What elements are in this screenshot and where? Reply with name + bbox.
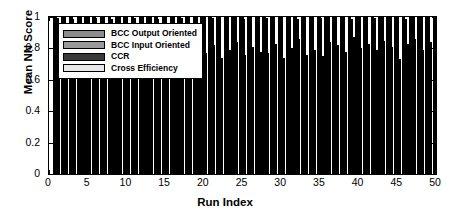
y-axis-tick: [49, 111, 53, 112]
y-axis-tick: [432, 174, 436, 175]
bar: [105, 64, 107, 174]
bar: [360, 48, 362, 174]
bar: [314, 50, 316, 174]
legend-label: CCR: [111, 52, 129, 61]
y-tick-label: 0.2: [0, 137, 40, 147]
legend-item[interactable]: BCC Input Oriented: [63, 40, 197, 50]
x-axis-tick: [165, 170, 166, 174]
bar: [244, 55, 246, 174]
legend-label: BCC Output Oriented: [111, 29, 197, 38]
x-axis-tick: [320, 170, 321, 174]
x-axis-tick: [436, 17, 437, 21]
bar: [221, 58, 223, 174]
x-axis-tick: [320, 17, 321, 21]
y-axis-tick: [49, 48, 53, 49]
bar: [236, 42, 238, 174]
x-axis-tick: [88, 170, 89, 174]
bar: [430, 42, 432, 174]
bar: [376, 50, 378, 174]
x-tick-label: 0: [33, 177, 63, 187]
bar: [267, 53, 269, 174]
bar: [229, 50, 231, 174]
legend-label: BCC Input Oriented: [111, 41, 190, 50]
x-axis-title: Run Index: [0, 196, 450, 208]
x-tick-label: 35: [304, 177, 334, 187]
x-tick-label: 45: [381, 177, 411, 187]
bar: [151, 64, 153, 174]
x-axis-tick: [126, 17, 127, 21]
y-axis-tick: [432, 48, 436, 49]
bar: [128, 64, 130, 174]
x-tick-label: 5: [72, 177, 102, 187]
x-axis-tick: [204, 17, 205, 21]
x-axis-tick: [204, 170, 205, 174]
y-axis-tick: [432, 80, 436, 81]
bar: [144, 64, 146, 174]
legend-swatch: [63, 30, 105, 38]
x-axis-tick: [126, 170, 127, 174]
bar: [368, 44, 370, 174]
bar: [291, 48, 293, 174]
x-tick-label: 10: [110, 177, 140, 187]
x-axis-tick: [359, 17, 360, 21]
bar: [58, 64, 60, 174]
bar: [422, 50, 424, 174]
legend-item[interactable]: CCR: [63, 52, 197, 62]
legend-label: Cross Efficiency: [111, 64, 178, 73]
bar: [260, 52, 262, 174]
bar: [407, 44, 409, 174]
x-axis-tick: [243, 170, 244, 174]
x-tick-label: 30: [265, 177, 295, 187]
y-tick-label: 0.8: [0, 42, 40, 52]
bar: [306, 55, 308, 174]
legend: BCC Output OrientedBCC Input OrientedCCR…: [58, 23, 203, 79]
legend-item[interactable]: Cross Efficiency: [63, 63, 197, 73]
y-tick-label: 0.6: [0, 74, 40, 84]
x-axis-tick: [436, 170, 437, 174]
bar: [136, 64, 138, 174]
bar: [120, 64, 122, 174]
bar: [252, 47, 254, 174]
x-tick-label: 50: [420, 177, 450, 187]
x-axis-tick: [397, 17, 398, 21]
x-axis-tick: [281, 170, 282, 174]
bar: [399, 59, 401, 174]
x-axis-tick: [243, 17, 244, 21]
bar: [167, 64, 169, 174]
bar: [414, 39, 416, 174]
y-axis-tick: [49, 143, 53, 144]
x-axis-tick: [281, 17, 282, 21]
legend-item[interactable]: BCC Output Oriented: [63, 29, 197, 39]
bar: [113, 64, 115, 174]
bar: [345, 52, 347, 174]
y-axis-tick: [49, 174, 53, 175]
x-axis-tick: [359, 170, 360, 174]
bar: [298, 39, 300, 174]
x-tick-label: 15: [149, 177, 179, 187]
x-axis-tick: [49, 17, 50, 21]
bar: [205, 53, 207, 174]
y-axis-tick: [432, 111, 436, 112]
bar: [383, 41, 385, 174]
figure-canvas: Mean NN Score Run Index 00.20.40.60.81 0…: [0, 0, 450, 214]
x-axis-tick: [88, 17, 89, 21]
bar: [159, 64, 161, 174]
x-tick-label: 40: [343, 177, 373, 187]
y-tick-label: 0.4: [0, 105, 40, 115]
bar: [275, 44, 277, 174]
bar: [97, 64, 99, 174]
bar: [329, 42, 331, 174]
x-tick-label: 25: [227, 177, 257, 187]
bar: [283, 58, 285, 174]
bar: [82, 64, 84, 174]
legend-swatch: [63, 41, 105, 49]
bar: [74, 64, 76, 174]
y-tick-label: 1: [0, 11, 40, 21]
legend-swatch: [63, 64, 105, 72]
bar: [89, 64, 91, 174]
bar: [322, 56, 324, 174]
y-axis-tick: [49, 80, 53, 81]
bar: [436, 17, 437, 174]
x-axis-tick: [397, 170, 398, 174]
y-axis-tick: [432, 143, 436, 144]
